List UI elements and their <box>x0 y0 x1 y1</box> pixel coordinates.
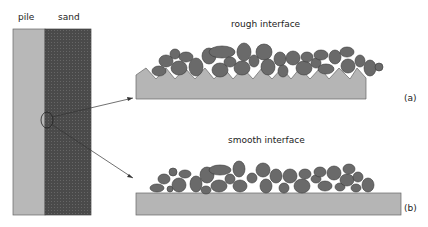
panel-b-label: (b) <box>404 203 417 213</box>
smooth-grains <box>150 161 374 194</box>
sand-label: sand <box>58 12 80 22</box>
smooth-substrate <box>136 193 401 215</box>
panel-a-label: (a) <box>404 93 417 103</box>
pile-label: pile <box>18 12 34 22</box>
smooth-interface-label: smooth interface <box>228 135 305 145</box>
pile-column <box>13 29 45 215</box>
sand-column <box>45 29 91 215</box>
interface-diagram <box>0 0 428 227</box>
rough-interface-label: rough interface <box>231 19 300 29</box>
